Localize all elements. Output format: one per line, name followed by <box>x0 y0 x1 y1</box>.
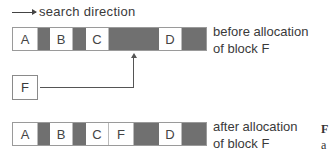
right-arrow-icon <box>12 12 36 13</box>
up-arrow-icon <box>131 53 137 58</box>
before-label-line1: before allocation <box>213 23 308 40</box>
free-block <box>73 123 86 145</box>
after-label: after allocation of block F <box>213 118 298 152</box>
connector-horizontal <box>40 87 134 88</box>
allocated-block-c: C <box>86 123 109 145</box>
new-block-f: F <box>12 75 38 100</box>
allocated-block-b: B <box>50 28 73 50</box>
memory-bar-after: ABCFD <box>12 122 207 146</box>
allocated-block-a: A <box>13 123 38 145</box>
allocated-block-d: D <box>159 123 182 145</box>
allocated-block-a: A <box>13 28 38 50</box>
free-block <box>109 28 159 50</box>
allocated-block-f: F <box>109 123 134 145</box>
after-label-line1: after allocation <box>213 118 298 135</box>
connector-vertical <box>133 57 134 88</box>
search-direction-label: search direction <box>39 4 136 19</box>
allocated-block-b: B <box>50 123 73 145</box>
free-block <box>38 123 50 145</box>
free-block <box>182 123 206 145</box>
memory-bar-before: ABCD <box>12 27 207 51</box>
allocated-block-c: C <box>86 28 109 50</box>
figure-caption-fragment: F a <box>321 121 328 153</box>
caption-line2: a <box>321 137 328 153</box>
search-direction-legend: search direction <box>12 4 136 19</box>
after-label-line2: of block F <box>213 135 298 152</box>
caption-line1: F <box>321 122 328 136</box>
before-label: before allocation of block F <box>213 23 308 57</box>
free-block <box>73 28 86 50</box>
before-label-line2: of block F <box>213 40 308 57</box>
new-block-label: F <box>21 80 29 95</box>
free-block <box>38 28 50 50</box>
allocated-block-d: D <box>159 28 182 50</box>
free-block <box>182 28 206 50</box>
free-block <box>134 123 159 145</box>
